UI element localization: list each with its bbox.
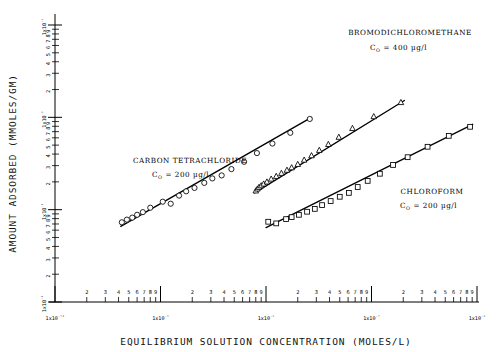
x-minor-tick-label: 3 <box>104 289 107 295</box>
annotation-concentration-square: CO = 200 µg/l <box>400 201 457 211</box>
data-point-square <box>377 171 382 176</box>
y-decade-label: 1x10⁻³ <box>41 203 47 220</box>
x-minor-tick-label: 3 <box>209 289 212 295</box>
data-point-square <box>391 163 396 168</box>
data-point-circle <box>202 180 207 185</box>
data-point-square <box>305 209 310 214</box>
data-point-triangle <box>350 125 356 130</box>
data-point-triangle <box>295 161 301 166</box>
y-minor-tick-label: 2 <box>45 182 51 185</box>
x-minor-tick-label: 9 <box>154 289 157 295</box>
y-minor-tick-label: 3 <box>45 258 51 261</box>
data-point-square <box>337 194 342 199</box>
x-minor-tick-label: 9 <box>260 289 263 295</box>
y-minor-tick-label: 4 <box>45 247 51 250</box>
y-minor-tick-label: 7 <box>45 224 51 227</box>
y-decade-label: 1x10⁻² <box>41 111 47 128</box>
y-decade-label: 1x10⁻¹ <box>41 19 47 36</box>
x-minor-tick-label: 5 <box>444 289 447 295</box>
y-minor-tick-label: 6 <box>45 46 51 49</box>
data-point-triangle <box>317 147 323 152</box>
data-point-circle <box>210 176 215 181</box>
y-minor-tick-label: 6 <box>45 230 51 233</box>
series-triangle <box>253 99 404 193</box>
y-minor-tick-label: 4 <box>45 154 51 157</box>
y-minor-tick-label: 5 <box>45 53 51 56</box>
x-minor-tick-label: 8 <box>360 289 363 295</box>
data-point-triangle <box>309 153 315 158</box>
x-minor-tick-label: 7 <box>143 289 146 295</box>
data-point-triangle <box>273 173 279 178</box>
data-point-triangle <box>371 114 377 119</box>
data-point-circle <box>307 116 312 121</box>
y-minor-tick-label: 2 <box>45 275 51 278</box>
y-axis-title: AMOUNT ADSORBED (MMOLES/GM) <box>7 74 18 253</box>
x-decade-label: 1x10⁻¹⁰ <box>46 315 65 321</box>
y-minor-tick-label: 5 <box>45 238 51 241</box>
y-minor-tick-label: 3 <box>45 74 51 77</box>
data-point-square <box>328 199 333 204</box>
data-point-circle <box>148 205 153 210</box>
data-point-circle <box>134 212 139 217</box>
data-point-circle <box>119 220 124 225</box>
x-decade-label: 1x10⁻⁹ <box>152 315 169 321</box>
data-point-triangle <box>336 134 342 139</box>
data-point-triangle <box>326 141 332 146</box>
data-point-square <box>405 155 410 160</box>
y-decade-label: 1x10⁻⁴ <box>41 296 47 313</box>
data-point-triangle <box>301 157 307 162</box>
x-minor-tick-label: 4 <box>328 289 331 295</box>
x-decade-label: 1x10⁻⁶ <box>469 315 486 321</box>
x-minor-tick-label: 6 <box>241 289 244 295</box>
x-minor-tick-label: 8 <box>465 289 468 295</box>
x-minor-tick-label: 9 <box>365 289 368 295</box>
x-minor-tick-label: 8 <box>254 289 257 295</box>
y-minor-tick-label: 5 <box>45 145 51 148</box>
data-point-triangle <box>279 170 285 175</box>
x-minor-tick-label: 4 <box>117 289 120 295</box>
data-point-square <box>284 217 289 222</box>
x-minor-tick-label: 6 <box>452 289 455 295</box>
data-point-square <box>296 212 301 217</box>
x-decade-label: 1x10⁻⁷ <box>363 315 380 321</box>
data-point-circle <box>270 141 275 146</box>
data-point-circle <box>140 210 145 215</box>
data-point-square <box>289 215 294 220</box>
y-minor-tick-label: 6 <box>45 138 51 141</box>
data-point-square <box>266 219 271 224</box>
x-minor-tick-label: 4 <box>222 289 225 295</box>
data-point-circle <box>124 217 129 222</box>
data-point-square <box>365 178 370 183</box>
y-minor-tick-label: 7 <box>45 132 51 135</box>
data-point-circle <box>254 150 259 155</box>
data-point-square <box>312 206 317 211</box>
data-point-square <box>346 190 351 195</box>
x-minor-tick-label: 2 <box>296 289 299 295</box>
data-point-circle <box>219 173 224 178</box>
annotation-concentration-circle: CO = 200 µg/l <box>152 170 209 180</box>
x-minor-tick-label: 5 <box>127 289 130 295</box>
data-point-circle <box>192 185 197 190</box>
adsorption-isotherm-plot: 1x10⁻¹⁰234567891x10⁻⁹234567891x10⁻⁸23456… <box>0 0 504 352</box>
data-point-circle <box>160 199 165 204</box>
y-minor-tick-label: 4 <box>45 62 51 65</box>
data-point-square <box>274 221 279 226</box>
data-point-square <box>355 185 360 190</box>
data-point-square <box>446 133 451 138</box>
x-minor-tick-label: 2 <box>85 289 88 295</box>
x-minor-tick-label: 9 <box>471 289 474 295</box>
data-point-circle <box>229 167 234 172</box>
data-point-circle <box>168 201 173 206</box>
y-minor-tick-label: 7 <box>45 40 51 43</box>
data-point-square <box>320 203 325 208</box>
annotation-concentration-triangle: CO = 400 µg/l <box>370 43 427 53</box>
chart-figure: 1x10⁻¹⁰234567891x10⁻⁹234567891x10⁻⁸23456… <box>0 0 504 352</box>
x-minor-tick-label: 2 <box>191 289 194 295</box>
x-minor-tick-label: 5 <box>338 289 341 295</box>
x-minor-tick-label: 3 <box>315 289 318 295</box>
data-point-circle <box>288 130 293 135</box>
annotation-title-square: CHLOROFORM <box>401 187 464 196</box>
x-minor-tick-label: 4 <box>433 289 436 295</box>
data-point-circle <box>176 193 181 198</box>
y-minor-tick-label: 3 <box>45 166 51 169</box>
